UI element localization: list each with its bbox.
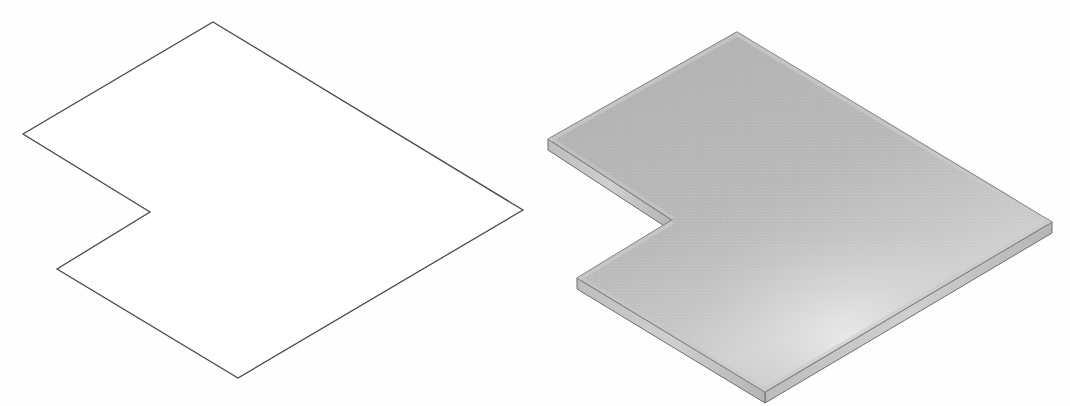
outline-figure — [23, 22, 523, 378]
solid-figure — [548, 32, 1052, 403]
figures-svg — [0, 0, 1070, 406]
plate-top-highlight — [548, 32, 1052, 392]
plate-top-face — [548, 32, 1052, 392]
outline-plate-polygon — [23, 22, 523, 378]
figure-canvas — [0, 0, 1070, 406]
